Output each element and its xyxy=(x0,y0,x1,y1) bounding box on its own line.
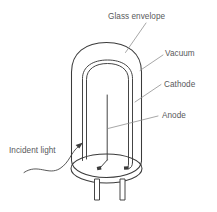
diagram-canvas: Glass envelope Vacuum Cathode Anode Inci… xyxy=(0,0,217,212)
phototube-diagram: Glass envelope Vacuum Cathode Anode Inci… xyxy=(0,0,217,212)
anode-shape xyxy=(100,95,107,168)
label-incident-light: Incident light xyxy=(9,146,56,155)
label-glass-envelope: Glass envelope xyxy=(108,12,166,21)
label-anode: Anode xyxy=(162,111,186,120)
base-plate-shape xyxy=(71,154,142,183)
leader-glass-envelope xyxy=(126,23,147,53)
leader-cathode xyxy=(135,85,161,103)
leader-anode xyxy=(108,116,158,129)
connection-pins xyxy=(95,179,126,200)
glass-envelope-shape xyxy=(72,43,142,178)
label-vacuum: Vacuum xyxy=(165,49,195,58)
label-cathode: Cathode xyxy=(164,80,196,89)
leader-vacuum xyxy=(140,55,163,71)
leader-lines xyxy=(108,23,163,129)
